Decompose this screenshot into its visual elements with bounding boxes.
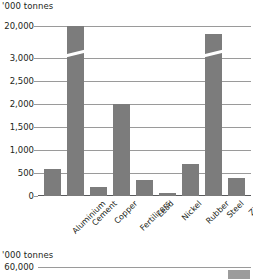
chart2-gridline-60000 bbox=[38, 267, 251, 268]
chart2-plot-area bbox=[38, 267, 251, 279]
ytick-mark bbox=[34, 58, 38, 59]
chart2-unit-label: '000 tonnes bbox=[2, 250, 53, 260]
ytick-label: 2,500 bbox=[0, 76, 34, 86]
ytick-mark bbox=[34, 150, 38, 151]
bar bbox=[182, 164, 199, 196]
xtick-label: Zinc bbox=[247, 199, 253, 218]
ytick-mark bbox=[34, 173, 38, 174]
ytick-label: 0 bbox=[0, 191, 34, 201]
ytick-label: 1,000 bbox=[0, 145, 34, 155]
bar bbox=[205, 34, 222, 196]
bar bbox=[136, 180, 153, 196]
ytick-label: 3,000 bbox=[0, 53, 34, 63]
ytick-mark bbox=[34, 196, 38, 197]
ytick-label: 1,500 bbox=[0, 122, 34, 132]
chart1-unit-label: '000 tonnes bbox=[2, 1, 53, 11]
chart2-ytick-label-60000: 60,000 bbox=[0, 262, 34, 272]
ytick-label: 20,000 bbox=[0, 21, 34, 31]
chart-primary-commodity-tonnage: '000 tonnes 05001,0001,5002,0002,5003,00… bbox=[0, 0, 253, 245]
chart-secondary-tonnage: '000 tonnes 60,000 bbox=[0, 250, 253, 279]
bar bbox=[90, 187, 107, 196]
bar bbox=[228, 270, 250, 279]
xtick-label: Nickel bbox=[180, 199, 203, 222]
chart1-plot-area bbox=[38, 26, 251, 196]
bar bbox=[159, 193, 176, 196]
ytick-mark bbox=[34, 81, 38, 82]
chart-page: '000 tonnes 05001,0001,5002,0002,5003,00… bbox=[0, 0, 253, 279]
ytick-mark bbox=[34, 127, 38, 128]
ytick-label: 500 bbox=[0, 168, 34, 178]
ytick-mark bbox=[34, 104, 38, 105]
ytick-label: 2,000 bbox=[0, 99, 34, 109]
bar bbox=[44, 169, 61, 196]
ytick-mark bbox=[34, 26, 38, 27]
bar bbox=[113, 104, 130, 196]
bar bbox=[228, 178, 245, 196]
xtick-label: Lead bbox=[155, 199, 175, 219]
